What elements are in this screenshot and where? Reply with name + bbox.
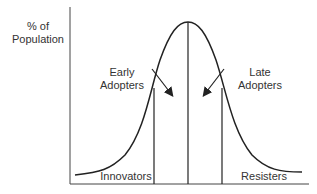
early-adopters-label-line2: Adopters — [94, 79, 150, 92]
early-adopters-label-line1: Early — [94, 66, 150, 79]
late-adopters-arrow — [204, 69, 224, 95]
y-axis-label: % of Population — [8, 20, 68, 46]
late-adopters-label-line1: Late — [232, 66, 288, 79]
early-adopters-label: Early Adopters — [94, 66, 150, 92]
y-axis-label-line2: Population — [8, 33, 68, 46]
early-adopters-arrow — [152, 69, 172, 95]
late-adopters-label-line2: Adopters — [232, 79, 288, 92]
innovators-label: Innovators — [98, 170, 154, 183]
resisters-label: Resisters — [236, 170, 292, 183]
late-adopters-label: Late Adopters — [232, 66, 288, 92]
y-axis-label-line1: % of — [8, 20, 68, 33]
